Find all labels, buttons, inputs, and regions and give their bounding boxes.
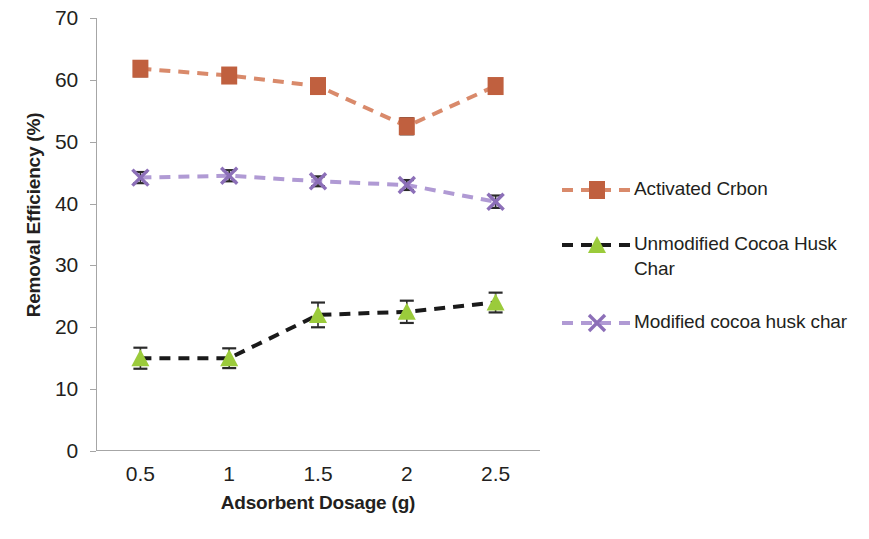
series-unmodified-cocoa-husk-char xyxy=(131,293,504,369)
legend-marker-icon xyxy=(560,310,634,336)
x-axis-title: Adsorbent Dosage (g) xyxy=(96,492,540,514)
y-tick-label: 70 xyxy=(18,6,78,30)
y-tick-label: 50 xyxy=(18,130,78,154)
plot-area: 010203040506070 0.511.522.5 xyxy=(96,18,540,450)
y-tick-label: 30 xyxy=(18,253,78,277)
legend-marker-icon xyxy=(560,232,634,258)
legend-marker-icon xyxy=(560,177,634,203)
series-plot xyxy=(96,18,540,451)
y-tick-mark xyxy=(90,451,96,452)
x-tick-label: 0.5 xyxy=(100,462,180,486)
legend-label: Activated Crbon xyxy=(634,176,768,201)
y-tick-label: 60 xyxy=(18,68,78,92)
x-tick-label: 1 xyxy=(189,462,269,486)
legend-item[interactable]: Modified cocoa husk char xyxy=(560,309,865,336)
series-modified-cocoa-husk-char xyxy=(132,168,503,210)
y-tick-label: 10 xyxy=(18,377,78,401)
y-tick-label: 40 xyxy=(18,192,78,216)
legend-label: Unmodified Cocoa Husk Char xyxy=(634,231,865,281)
legend-item[interactable]: Unmodified Cocoa Husk Char xyxy=(560,231,865,281)
y-tick-label: 20 xyxy=(18,315,78,339)
y-tick-label: 0 xyxy=(18,439,78,463)
x-tick-label: 1.5 xyxy=(278,462,358,486)
series-activated-crbon xyxy=(132,60,503,136)
legend-item[interactable]: Activated Crbon xyxy=(560,176,865,203)
x-tick-label: 2.5 xyxy=(456,462,536,486)
legend-label: Modified cocoa husk char xyxy=(634,309,847,334)
chart-figure: Removal Efficiency (%) 010203040506070 0… xyxy=(0,0,869,539)
chart-legend: Activated CrbonUnmodified Cocoa Husk Cha… xyxy=(560,176,865,364)
x-tick-label: 2 xyxy=(367,462,447,486)
